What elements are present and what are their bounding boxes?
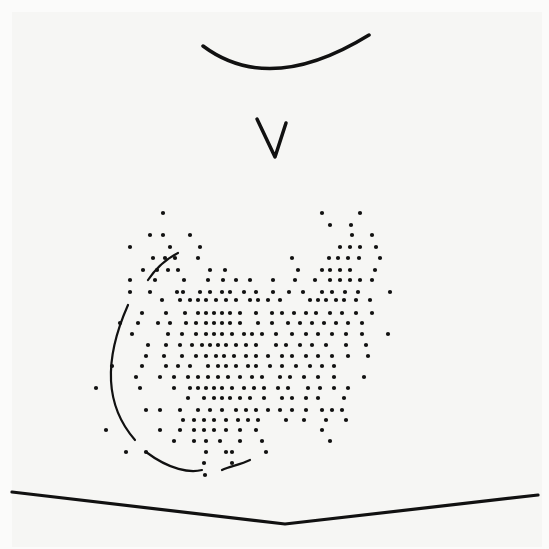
ink-dot: [220, 321, 224, 325]
ink-dot: [151, 256, 155, 260]
ink-dot: [328, 311, 332, 315]
ink-dot: [224, 418, 228, 422]
ink-dot: [290, 354, 294, 358]
ink-dot: [302, 418, 306, 422]
ink-dot: [338, 268, 342, 272]
ink-dot: [124, 450, 128, 454]
ink-dot: [328, 439, 332, 443]
ink-dot: [328, 268, 332, 272]
ink-dot: [200, 343, 204, 347]
ink-dot: [238, 321, 242, 325]
ink-dot: [343, 290, 347, 294]
ink-dot: [356, 290, 360, 294]
ink-dot: [224, 428, 228, 432]
ink-dot: [266, 408, 270, 412]
ink-dot: [290, 408, 294, 412]
ink-dot: [218, 439, 222, 443]
ink-dot: [260, 332, 264, 336]
ink-dot: [350, 233, 354, 237]
ink-dot: [320, 268, 324, 272]
ink-dot: [254, 354, 258, 358]
ink-dot: [310, 321, 314, 325]
ink-dot: [118, 321, 122, 325]
ink-dot: [268, 364, 272, 368]
ink-dot: [378, 256, 382, 260]
ink-dot: [178, 408, 182, 412]
ink-dot: [224, 364, 228, 368]
ink-dot: [172, 439, 176, 443]
ink-dot: [254, 428, 258, 432]
ink-dot: [271, 278, 275, 282]
ink-dot: [204, 450, 208, 454]
ink-dot: [262, 396, 266, 400]
ink-dot: [294, 364, 298, 368]
ink-dot: [250, 375, 254, 379]
ink-dot: [140, 364, 144, 368]
ink-dot: [208, 290, 212, 294]
ink-dot: [313, 278, 317, 282]
ink-dot: [256, 321, 260, 325]
ink-dot: [202, 396, 206, 400]
ink-dot: [136, 321, 140, 325]
ink-dot: [230, 386, 234, 390]
ink-dot: [208, 268, 212, 272]
ink-dot: [204, 311, 208, 315]
ink-dot: [180, 332, 184, 336]
ink-dot: [130, 332, 134, 336]
ink-dot: [348, 245, 352, 249]
ink-dot: [354, 298, 358, 302]
ink-dot: [236, 418, 240, 422]
ink-dot: [163, 256, 167, 260]
ink-dot: [342, 298, 346, 302]
ink-dot: [254, 311, 258, 315]
ink-dot: [160, 298, 164, 302]
ink-dot: [284, 343, 288, 347]
ink-dot: [308, 364, 312, 368]
ink-dot: [301, 290, 305, 294]
ink-dot: [194, 354, 198, 358]
ink-dot: [373, 268, 377, 272]
ink-dot: [183, 311, 187, 315]
ink-dot: [220, 396, 224, 400]
ink-dot: [254, 364, 258, 368]
ink-dot: [188, 298, 192, 302]
ink-dot: [228, 321, 232, 325]
ink-dot: [304, 396, 308, 400]
ink-dot: [202, 418, 206, 422]
ink-dot: [248, 396, 252, 400]
ink-dot: [162, 354, 166, 358]
ink-dot: [196, 386, 200, 390]
ink-drawing: [0, 0, 549, 549]
ink-dot: [298, 321, 302, 325]
ink-dot: [320, 428, 324, 432]
ink-dot: [287, 290, 291, 294]
ink-dot: [188, 386, 192, 390]
ink-dot: [212, 418, 216, 422]
ink-dot: [140, 311, 144, 315]
ink-dot: [248, 278, 252, 282]
ink-dot: [332, 364, 336, 368]
ink-dot: [138, 386, 142, 390]
ink-dot: [349, 223, 353, 227]
ink-dot: [256, 298, 260, 302]
ink-dot: [346, 321, 350, 325]
ink-dot: [220, 386, 224, 390]
ink-dot: [220, 332, 224, 336]
ink-dot: [144, 354, 148, 358]
ink-dot: [316, 396, 320, 400]
ink-dot: [320, 364, 324, 368]
ink-dot: [176, 364, 180, 368]
ink-dot: [327, 256, 331, 260]
ink-dot: [206, 278, 210, 282]
ink-dot: [172, 375, 176, 379]
ink-dot: [286, 321, 290, 325]
ink-dot: [370, 311, 374, 315]
ink-dot: [386, 332, 390, 336]
ink-dot: [158, 408, 162, 412]
ink-dot: [288, 375, 292, 379]
ink-dot: [250, 332, 254, 336]
ink-dot: [284, 418, 288, 422]
ink-dot: [274, 332, 278, 336]
ink-dot: [332, 386, 336, 390]
ink-dot: [358, 211, 362, 215]
